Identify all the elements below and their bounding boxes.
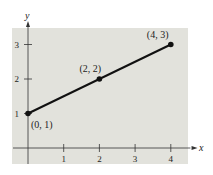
data-label: (0, 1) bbox=[31, 119, 53, 131]
x-tick-label: 3 bbox=[133, 154, 138, 164]
data-label: (4, 3) bbox=[147, 29, 169, 41]
y-tick-label: 3 bbox=[15, 40, 20, 50]
x-tick-label: 2 bbox=[97, 154, 102, 164]
y-tick-label: 2 bbox=[15, 74, 20, 84]
chart: 1234123 (0, 1)(2, 2)(4, 3) x y bbox=[0, 0, 213, 175]
x-tick-label: 1 bbox=[61, 154, 66, 164]
data-point bbox=[168, 42, 174, 48]
y-axis-label: y bbox=[24, 10, 30, 21]
y-axis-arrow bbox=[26, 21, 30, 27]
x-axis-arrow bbox=[192, 146, 198, 150]
data-point bbox=[25, 111, 31, 117]
x-tick-label: 4 bbox=[169, 154, 174, 164]
data-label: (2, 2) bbox=[79, 63, 101, 75]
x-axis-label: x bbox=[198, 142, 204, 153]
data-point bbox=[97, 76, 103, 82]
y-tick-label: 1 bbox=[15, 109, 20, 119]
